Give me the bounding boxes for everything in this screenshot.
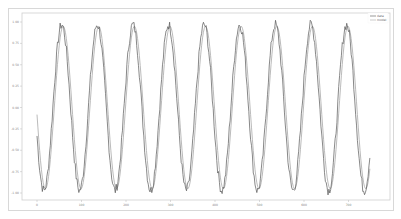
x-tick-label: 100 bbox=[79, 203, 85, 207]
x-tick-label: 600 bbox=[301, 203, 307, 207]
x-tick-label: 700 bbox=[346, 203, 352, 207]
y-tick-label: 0.75 bbox=[12, 41, 19, 45]
x-axis: 0100200300400500600700 bbox=[36, 200, 351, 207]
x-tick-label: 0 bbox=[36, 203, 38, 207]
y-tick-label: 0.50 bbox=[12, 63, 19, 67]
y-tick-label: -0.50 bbox=[11, 148, 19, 152]
x-tick-label: 400 bbox=[212, 203, 218, 207]
legend-label: model bbox=[377, 18, 387, 22]
x-tick-label: 500 bbox=[257, 203, 263, 207]
y-tick-label: 0.25 bbox=[12, 84, 19, 88]
x-tick-label: 300 bbox=[168, 203, 174, 207]
legend: datamodel bbox=[368, 13, 388, 23]
y-tick-label: 1.00 bbox=[12, 20, 19, 24]
line-chart: 1.000.750.500.250.00-0.25-0.50-0.75-1.00… bbox=[0, 0, 401, 219]
x-tick-label: 200 bbox=[123, 203, 129, 207]
y-tick-label: -0.25 bbox=[11, 127, 19, 131]
y-tick-label: 0.00 bbox=[12, 106, 19, 110]
y-tick-label: -0.75 bbox=[11, 170, 19, 174]
y-tick-label: -1.00 bbox=[11, 191, 19, 195]
y-axis: 1.000.750.500.250.00-0.25-0.50-0.75-1.00 bbox=[11, 20, 22, 195]
